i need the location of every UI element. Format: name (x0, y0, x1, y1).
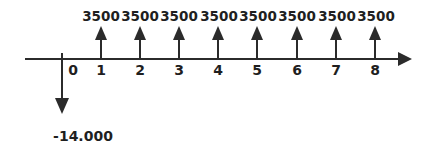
period-label-2: 2 (135, 62, 145, 78)
cash-flow-period-1: 3500 1 (82, 8, 120, 78)
inflow-arrow-head-8 (369, 26, 381, 40)
period-label-3: 3 (174, 62, 184, 78)
inflow-arrow-head-2 (134, 26, 146, 40)
period-label-4: 4 (213, 62, 223, 78)
period-label-5: 5 (252, 62, 262, 78)
cash-flow-period-3: 3500 3 (160, 8, 198, 78)
inflow-arrow-head-5 (251, 26, 263, 40)
period-label-8: 8 (370, 62, 380, 78)
cash-flow-period-4: 3500 4 (200, 8, 238, 78)
inflow-amount-label-2: 3500 (121, 8, 159, 24)
cash-flow-period-5: 3500 5 (239, 8, 277, 78)
inflow-amount-label-1: 3500 (82, 8, 120, 24)
inflow-arrow-head-4 (212, 26, 224, 40)
inflow-amount-label-4: 3500 (200, 8, 238, 24)
inflow-amount-label-6: 3500 (278, 8, 316, 24)
outflow-amount-label-0: -14.000 (53, 128, 113, 144)
time-axis-arrowhead (398, 52, 412, 66)
inflow-arrow-head-3 (173, 26, 185, 40)
period-label-7: 7 (331, 62, 341, 78)
cash-flow-period-6: 3500 6 (278, 8, 316, 78)
inflow-arrow-head-7 (330, 26, 342, 40)
cash-flow-period-2: 3500 2 (121, 8, 159, 78)
inflow-amount-label-8: 3500 (357, 8, 395, 24)
period-label-0: 0 (68, 62, 78, 78)
period-label-1: 1 (96, 62, 106, 78)
inflow-amount-label-3: 3500 (160, 8, 198, 24)
inflow-amount-label-5: 3500 (239, 8, 277, 24)
inflow-arrow-head-6 (291, 26, 303, 40)
timeline-canvas: 0 -14.000 3500 1 3500 2 3500 3 (0, 0, 425, 149)
cash-flow-period-8: 3500 8 (357, 8, 395, 78)
period-label-6: 6 (292, 62, 302, 78)
inflow-arrow-head-1 (95, 26, 107, 40)
cash-flow-period-7: 3500 7 (318, 8, 356, 78)
inflow-amount-label-7: 3500 (318, 8, 356, 24)
outflow-arrow-head-0 (55, 98, 69, 114)
cash-flow-timeline-figure: 0 -14.000 3500 1 3500 2 3500 3 (0, 0, 425, 149)
